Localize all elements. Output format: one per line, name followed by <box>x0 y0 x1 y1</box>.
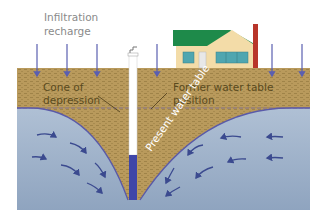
infiltration-label-1: Infiltration <box>44 11 98 23</box>
infiltration-label-2: recharge <box>44 25 91 37</box>
cone-label-2: depression <box>43 94 100 106</box>
groundwater-diagram: Infiltration recharge Cone of depression… <box>0 0 333 224</box>
house <box>173 24 258 68</box>
well <box>128 47 138 200</box>
cone-label-1: Cone of <box>43 81 84 93</box>
